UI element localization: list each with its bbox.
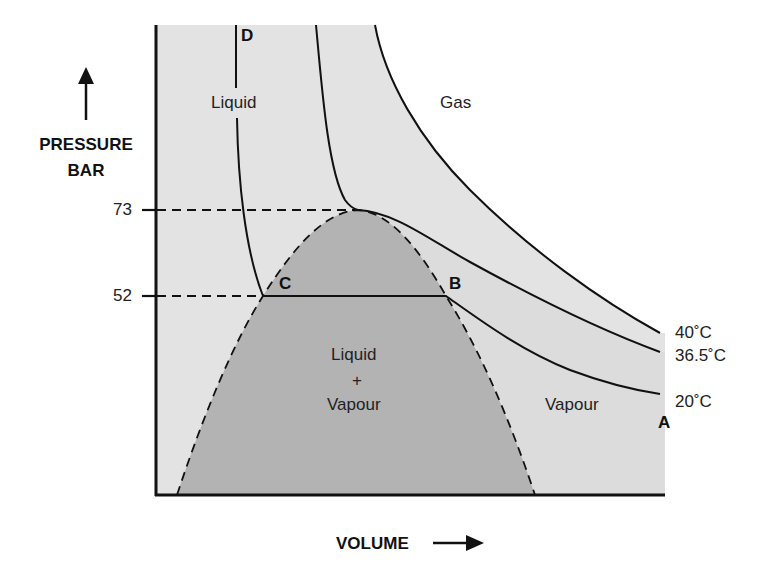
tick-label-52: 52 [113,287,132,304]
point-label-d: D [241,27,253,44]
isotherm-label-40c: 40˚C [675,324,712,341]
tick-label-73: 73 [113,201,132,218]
region-label-mix-line3: Vapour [327,396,381,413]
isotherm-label-36-5c: 36.5˚C [675,347,726,364]
y-axis-title-line2: BAR [31,162,141,179]
region-label-gas: Gas [440,94,471,111]
isotherm-label-20c: 20˚C [675,393,712,410]
point-label-a: A [658,414,670,431]
region-label-mix-line2: + [352,372,362,389]
region-label-vapour: Vapour [545,396,599,413]
region-label-liquid: Liquid [211,94,256,111]
right-arrow-icon [433,535,484,551]
region-label-mix-line1: Liquid [331,346,376,363]
x-axis-title: VOLUME [336,535,409,552]
point-label-b: B [449,275,461,292]
up-arrow-icon [78,67,94,120]
y-axis-title-line1: PRESSURE [31,136,141,153]
point-label-c: C [279,275,291,292]
